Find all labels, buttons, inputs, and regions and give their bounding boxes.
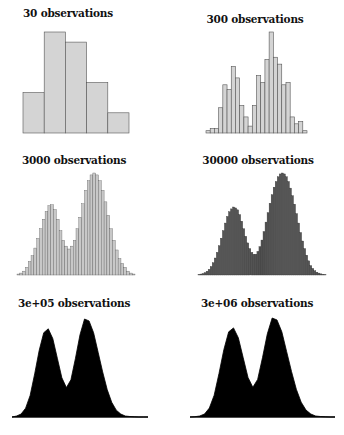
- density-area: [190, 318, 335, 417]
- density-3e06: [0, 0, 344, 435]
